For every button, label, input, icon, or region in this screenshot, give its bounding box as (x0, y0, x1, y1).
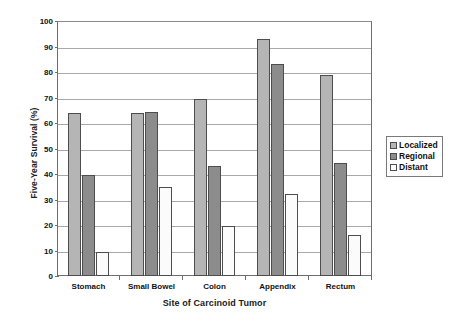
y-axis-tick-mark (55, 276, 59, 277)
x-axis-tick-label: Colon (203, 282, 226, 291)
bar-localized-colon (194, 99, 208, 276)
legend-swatch-localized-icon (390, 142, 397, 149)
legend-swatch-distant-icon (390, 164, 397, 171)
bar-distant-colon (222, 226, 236, 276)
chart-legend: LocalizedRegionalDistant (386, 136, 443, 177)
bar-localized-stomach (68, 113, 82, 276)
bar-group (246, 21, 309, 276)
bar-distant-appendix (285, 194, 299, 276)
bar-regional-appendix (271, 64, 285, 276)
legend-item-regional: Regional (390, 151, 438, 162)
x-axis-tick-mark (245, 276, 246, 280)
bar-regional-colon (208, 166, 222, 276)
x-axis-tick-mark (182, 276, 183, 280)
x-axis-tick-mark (308, 276, 309, 280)
legend-label: Localized (399, 140, 438, 151)
legend-item-distant: Distant (390, 162, 438, 173)
x-axis-tick-label: Rectum (326, 282, 355, 291)
x-axis-tick-label: Appendix (259, 282, 295, 291)
x-axis-tick-label: Stomach (72, 282, 106, 291)
legend-swatch-regional-icon (390, 153, 397, 160)
x-axis-title: Site of Carcinoid Tumor (57, 298, 372, 308)
bar-regional-rectum (334, 163, 348, 276)
bar-localized-rectum (320, 75, 334, 276)
legend-item-localized: Localized (390, 140, 438, 151)
legend-label: Distant (399, 162, 428, 173)
bar-distant-stomach (96, 252, 110, 276)
bar-group (120, 21, 183, 276)
x-axis-tick-mark (119, 276, 120, 280)
bar-regional-stomach (82, 175, 96, 276)
bar-localized-appendix (257, 39, 271, 276)
x-axis-tick-mark (371, 276, 372, 280)
bar-localized-small-bowel (131, 113, 145, 276)
bars-layer (57, 21, 372, 276)
bar-group (57, 21, 120, 276)
chart-figure: Five-Year Survival (%) 01020304050607080… (0, 0, 459, 326)
bar-distant-small-bowel (159, 187, 173, 276)
bar-group (309, 21, 372, 276)
legend-label: Regional (399, 151, 435, 162)
x-axis-tick-label: Small Bowel (128, 282, 175, 291)
bar-distant-rectum (348, 235, 362, 276)
x-axis-tick-labels: StomachSmall BowelColonAppendixRectum (57, 282, 372, 296)
bar-group (183, 21, 246, 276)
bar-regional-small-bowel (145, 112, 159, 276)
